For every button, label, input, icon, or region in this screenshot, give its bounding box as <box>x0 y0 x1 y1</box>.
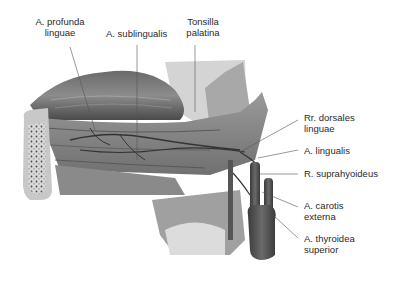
label-line: A. thyroidea <box>304 233 355 244</box>
label-line: linguae <box>304 123 355 134</box>
label-line: A. profunda <box>30 16 90 27</box>
label-line: linguae <box>30 27 90 38</box>
label-line: Rr. dorsales <box>304 112 355 123</box>
label-tonsilla-palatina: Tonsilla palatina <box>178 16 228 38</box>
label-line: superior <box>304 244 355 255</box>
label-a-carotis-externa: A. carotis externa <box>304 200 344 222</box>
mandible <box>23 108 52 200</box>
label-line: palatina <box>178 27 228 38</box>
label-a-profunda-linguae: A. profunda linguae <box>30 16 90 38</box>
label-rr-dorsales-linguae: Rr. dorsales linguae <box>304 112 355 134</box>
label-line: externa <box>304 211 344 222</box>
label-a-thyroidea-superior: A. thyroidea superior <box>304 233 355 255</box>
label-line: A. lingualis <box>304 145 350 156</box>
tongue <box>30 71 184 120</box>
label-line: R. suprahyoideus <box>304 168 378 179</box>
label-line: A. sublingualis <box>106 28 167 39</box>
label-r-suprahyoideus: R. suprahyoideus <box>304 168 378 179</box>
label-line: A. carotis <box>304 200 344 211</box>
label-a-sublingualis: A. sublingualis <box>106 28 167 39</box>
label-a-lingualis: A. lingualis <box>304 145 350 156</box>
label-line: Tonsilla <box>178 16 228 27</box>
